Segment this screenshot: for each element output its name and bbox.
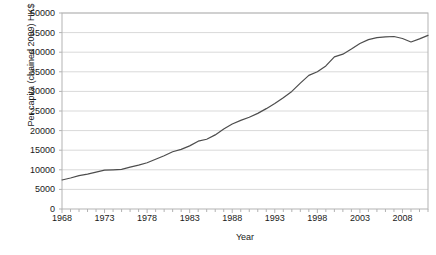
x-tick-label: 1993 <box>255 213 295 223</box>
x-tick-label: 1973 <box>85 213 125 223</box>
y-axis-title-text: Per capita (chained 2009) HK$ <box>26 3 36 126</box>
x-axis-title-text: Year <box>236 232 254 242</box>
x-tick-label: 1968 <box>42 213 82 223</box>
x-axis-tick-labels: 196819731978198319881993199820032008 <box>0 0 436 255</box>
y-axis-title: Per capita (chained 2009) HK$ <box>26 0 40 165</box>
x-tick-label: 1978 <box>127 213 167 223</box>
x-tick-label: 2003 <box>340 213 380 223</box>
x-tick-label: 1988 <box>212 213 252 223</box>
chart-figure: 5000045000400003500030000250002000015000… <box>0 0 436 255</box>
x-tick-label: 1983 <box>170 213 210 223</box>
x-tick-label: 1998 <box>297 213 337 223</box>
x-tick-label: 2008 <box>382 213 422 223</box>
x-axis-title: Year <box>62 232 428 242</box>
